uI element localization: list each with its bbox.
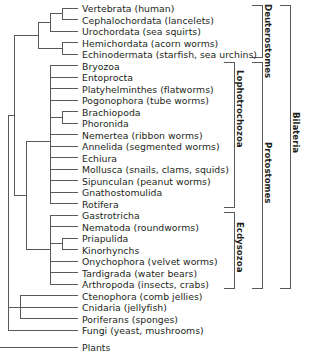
taxon-label-nemertea: Nemertea (ribbon worms): [82, 131, 203, 140]
taxon-label-arthropoda: Arthropoda (insects, crabs): [82, 280, 209, 289]
clade-label-protostomes: Protostomes: [263, 142, 272, 203]
bracket-bilateria: [280, 5, 290, 288]
taxon-label-plants: Plants: [82, 343, 110, 352]
clade-label-ecdysozoa: Ecdysozoa: [235, 222, 244, 272]
taxon-label-poriferans: Poriferans (sponges): [82, 315, 178, 324]
taxon-label-cnidaria: Cnidaria (jellyfish): [82, 303, 167, 312]
taxon-label-hemichordata: Hemichordata (acorn worms): [82, 39, 218, 48]
taxon-label-rotifera: Rotifera: [82, 200, 119, 209]
clade-label-deuterostomes: Deuterostomes: [263, 4, 272, 78]
taxon-label-entoprocta: Entoprocta: [82, 73, 133, 82]
taxon-label-gnathostomulida: Gnathostomulida: [82, 188, 162, 197]
taxon-label-cephalochordata: Cephalochordata (lancelets): [82, 16, 214, 25]
taxon-label-priapulida: Priapulida: [82, 234, 128, 243]
taxon-label-vertebrata: Vertebrata (human): [82, 4, 174, 13]
taxon-label-pogonophora: Pogonophora (tube worms): [82, 96, 209, 105]
taxon-label-phoronida: Phoronida: [82, 119, 129, 128]
taxon-label-bryozoa: Bryozoa: [82, 62, 120, 71]
taxon-label-annelida: Annelida (segmented worms): [82, 142, 220, 151]
taxon-label-onychophora: Onychophora (velvet worms): [82, 257, 218, 266]
taxon-label-brachiopoda: Brachiopoda: [82, 108, 141, 117]
taxon-label-urochordata: Urochordata (sea squirts): [82, 27, 201, 36]
taxon-label-gastrotricha: Gastrotricha: [82, 211, 140, 220]
taxon-label-sipunculan: Sipunculan (peanut worms): [82, 177, 211, 186]
phylogenetic-tree-diagram: Vertebrata (human) Cephalochordata (lanc…: [0, 0, 311, 357]
bracket-lophotrochozoa: [224, 62, 234, 207]
taxon-label-echinodermata: Echinodermata (starfish, sea urchins): [82, 50, 257, 59]
taxon-label-fungi: Fungi (yeast, mushrooms): [82, 326, 204, 335]
taxon-label-nematoda: Nematoda (roundworms): [82, 223, 199, 232]
taxon-label-platyhelminthes: Platyhelminthes (flatworms): [82, 85, 214, 94]
clade-label-lophotrochozoa: Lophotrochozoa: [235, 70, 244, 148]
taxon-label-mollusca: Mollusca (snails, clams, squids): [82, 165, 229, 174]
taxon-label-echiura: Echiura: [82, 154, 117, 163]
bracket-ecdysozoa: [224, 212, 234, 288]
taxon-label-ctenophora: Ctenophora (comb jellies): [82, 292, 202, 301]
taxon-label-kinorhynchs: Kinorhynchs: [82, 246, 139, 255]
clade-label-bilateria: Bilateria: [291, 112, 300, 153]
bracket-protostomes: [252, 62, 262, 288]
taxon-label-tardigrada: Tardigrada (water bears): [82, 269, 197, 278]
